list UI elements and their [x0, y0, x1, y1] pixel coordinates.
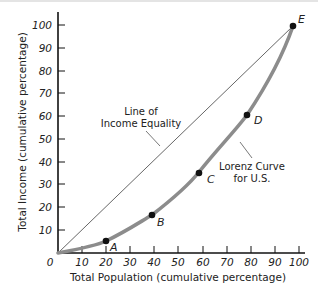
- y-tick-label: 50: [39, 133, 53, 145]
- point-label-c: C: [207, 173, 215, 186]
- point-label-e: E: [298, 13, 305, 26]
- point-e: [290, 23, 297, 30]
- equality-annotation-line2: Income Equality: [101, 118, 182, 129]
- y-tick-label: 70: [39, 87, 53, 99]
- x-tick-label: 40: [147, 256, 161, 268]
- point-c: [196, 170, 203, 177]
- x-tick-label: 70: [220, 256, 234, 268]
- x-tick-label: 50: [171, 256, 185, 268]
- point-label-d: D: [254, 114, 262, 127]
- line-of-equality: [58, 26, 293, 253]
- y-tick-label: 40: [39, 156, 53, 168]
- x-tick-label: 100: [289, 256, 309, 268]
- y-tick-label: 100: [32, 19, 52, 31]
- lorenz-chart: 10 20 30 40 50 60 70 80 90 100 0 10 20 3…: [0, 0, 318, 297]
- equality-annotation-line1: Line of: [124, 106, 158, 117]
- x-axis-title: Total Population (cumulative percentage): [69, 271, 286, 283]
- curve-points: [103, 23, 297, 245]
- point-d: [244, 112, 251, 119]
- y-tick-label: 90: [39, 42, 53, 54]
- point-label-b: B: [157, 216, 165, 229]
- equality-pointer: [146, 131, 160, 146]
- x-tick-label: 60: [196, 256, 210, 268]
- x-tick-label: 30: [123, 256, 137, 268]
- x-tick-label: 80: [244, 256, 258, 268]
- y-tick-label: 20: [39, 201, 53, 213]
- lorenz-annotation-line1: Lorenz Curve: [219, 161, 285, 172]
- y-tick-label: 60: [39, 110, 53, 122]
- y-tick-label: 10: [39, 224, 53, 236]
- x-tick-label: 20: [99, 256, 113, 268]
- point-label-a: A: [109, 241, 118, 254]
- x-tick-labels: 0 10 20 30 40 50 60 70 80 90 100: [47, 256, 310, 268]
- point-a: [103, 238, 110, 245]
- lorenz-pointer: [240, 142, 252, 158]
- point-b: [149, 212, 156, 219]
- x-tick-label: 90: [268, 256, 282, 268]
- origin-label: 0: [47, 256, 54, 268]
- x-tick-label: 10: [75, 256, 89, 268]
- lorenz-annotation-line2: for U.S.: [234, 173, 271, 184]
- y-axis-title: Total Income (cumulative percentage): [16, 32, 28, 233]
- y-tick-labels: 10 20 30 40 50 60 70 80 90 100: [32, 19, 52, 236]
- y-ticks: [58, 25, 65, 230]
- y-tick-label: 30: [39, 178, 53, 190]
- y-tick-label: 80: [39, 65, 53, 77]
